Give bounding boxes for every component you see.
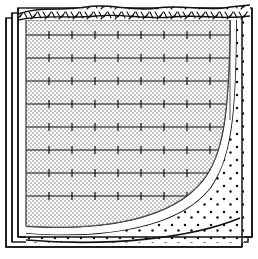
- turf-cap: [14, 0, 254, 22]
- turf-texture: [14, 0, 254, 22]
- cross-section-figure: [0, 0, 258, 259]
- cross-section-svg: [0, 0, 258, 259]
